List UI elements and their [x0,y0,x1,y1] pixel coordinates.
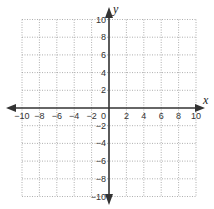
x-tick-label: −2 [86,111,96,121]
coordinate-plane: −10−8−6−4−20246810 −10−8−6−4−2246810 x y [0,0,214,209]
x-tick-label: 8 [176,111,181,121]
x-tick-label: −4 [69,111,79,121]
x-tick-label: 10 [191,111,201,121]
y-tick-label: −6 [96,156,106,166]
x-tick-label: −6 [52,111,62,121]
y-tick-label: 8 [101,32,106,42]
x-tick-label: 4 [141,111,146,121]
y-tick-label: 10 [96,15,106,25]
x-tick-label: 2 [124,111,129,121]
x-tick-label: 6 [159,111,164,121]
y-axis-up-arrow-icon [105,7,113,18]
x-tick-label: −10 [14,111,29,121]
y-tick-label: −8 [96,174,106,184]
y-tick-label: −4 [96,138,106,148]
y-axis-label: y [112,2,119,16]
x-axis-label: x [202,93,209,107]
x-tick-label: −8 [34,111,44,121]
x-tick-labels: −10−8−6−4−20246810 [14,111,201,121]
y-tick-label: 4 [101,68,106,78]
y-tick-label: 2 [101,85,106,95]
x-tick-label: 0 [101,111,106,121]
y-axis-down-arrow-icon [105,194,113,205]
y-tick-label: −10 [91,192,106,202]
y-tick-label: −2 [96,121,106,131]
y-tick-label: 6 [101,50,106,60]
